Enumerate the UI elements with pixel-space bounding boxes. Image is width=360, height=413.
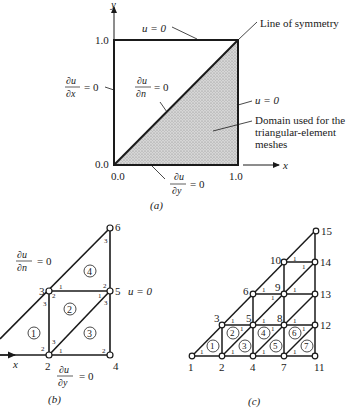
svg-text:8: 8: [277, 312, 283, 324]
svg-text:∂x: ∂x: [66, 88, 76, 99]
svg-text:6: 6: [243, 285, 249, 297]
svg-text:15: 15: [321, 225, 333, 237]
svg-text:2: 2: [52, 292, 56, 300]
node-b-4: [107, 352, 113, 358]
svg-text:1: 1: [240, 325, 244, 333]
svg-text:3: 3: [52, 338, 56, 346]
svg-text:∂y: ∂y: [172, 185, 182, 196]
bottom-bc-label-b: ∂u ∂y = 0: [57, 364, 94, 388]
svg-text:1: 1: [293, 317, 297, 325]
svg-text:1: 1: [31, 328, 36, 339]
figure-canvas: y x 1.0 0.0 0.0 1.0 u = 0 Line of symmet…: [0, 0, 360, 413]
svg-text:1: 1: [293, 286, 297, 294]
svg-text:= 0: = 0: [154, 81, 169, 93]
diag-bc-label-b: ∂u ∂n = 0: [16, 249, 52, 273]
svg-text:10: 10: [270, 254, 282, 266]
svg-text:3: 3: [104, 299, 108, 307]
caption-c: (c): [248, 395, 261, 408]
svg-text:2: 2: [67, 304, 72, 315]
svg-text:4: 4: [87, 266, 92, 277]
figure-b: x 2 3 4 5 6 1: [0, 221, 152, 406]
svg-text:4: 4: [261, 328, 266, 338]
svg-text:3: 3: [214, 312, 220, 324]
svg-text:5: 5: [273, 341, 278, 351]
svg-text:14: 14: [320, 256, 332, 268]
svg-text:2: 2: [103, 282, 107, 290]
tick-y-1: 1.0: [95, 34, 109, 46]
domain-label-line2: triangular-element: [255, 126, 336, 138]
svg-text:= 0: = 0: [79, 370, 94, 382]
svg-text:1: 1: [200, 348, 204, 356]
svg-text:1: 1: [262, 317, 266, 325]
svg-text:1: 1: [271, 294, 275, 302]
left-bc-label: ∂u ∂x = 0: [65, 75, 114, 99]
bottom-bc-label: ∂u ∂y = 0: [152, 166, 205, 196]
symmetry-label: Line of symmetry: [260, 17, 339, 29]
svg-text:= 0: = 0: [190, 178, 205, 190]
right-bc-leader: [238, 101, 252, 105]
svg-text:6: 6: [115, 221, 121, 233]
svg-text:∂u: ∂u: [17, 249, 27, 260]
svg-text:1: 1: [293, 348, 297, 356]
svg-text:3: 3: [39, 285, 45, 297]
svg-text:1: 1: [262, 348, 266, 356]
x-axis-label: x: [282, 159, 288, 171]
svg-text:7: 7: [281, 361, 287, 373]
right-bc-label: u = 0: [255, 94, 279, 106]
svg-text:3: 3: [242, 341, 247, 351]
x-axis-label-b: x: [12, 358, 18, 370]
svg-text:∂n: ∂n: [136, 88, 146, 99]
svg-text:1: 1: [262, 286, 266, 294]
svg-text:9: 9: [275, 281, 281, 293]
svg-text:1: 1: [231, 317, 235, 325]
symmetry-leader: [238, 22, 257, 40]
svg-text:2: 2: [41, 345, 45, 353]
svg-text:11: 11: [314, 361, 325, 373]
svg-text:∂u: ∂u: [66, 75, 76, 86]
top-bc-label: u = 0: [142, 22, 166, 34]
svg-text:2: 2: [45, 360, 51, 372]
svg-text:1: 1: [302, 325, 306, 333]
svg-text:1: 1: [188, 361, 194, 373]
domain-label-line1: Domain used for the: [255, 114, 345, 126]
svg-text:4: 4: [113, 360, 119, 372]
svg-text:1: 1: [231, 348, 235, 356]
svg-text:6: 6: [292, 328, 297, 338]
svg-text:∂u: ∂u: [174, 171, 184, 182]
svg-text:∂u: ∂u: [59, 364, 69, 375]
node-b-5: [107, 288, 113, 294]
diagonal-bc-label: ∂u ∂n = 0: [135, 75, 169, 112]
svg-text:∂n: ∂n: [17, 262, 27, 273]
svg-text:1: 1: [271, 325, 275, 333]
svg-text:3: 3: [104, 237, 108, 245]
svg-text:1: 1: [98, 292, 102, 300]
node-b-6: [107, 225, 113, 231]
svg-text:∂u: ∂u: [137, 75, 147, 86]
figure-a: y x 1.0 0.0 0.0 1.0 u = 0 Line of symmet…: [65, 0, 345, 212]
tick-y-0: 0.0: [95, 158, 109, 170]
svg-text:∂y: ∂y: [58, 377, 68, 388]
svg-text:7: 7: [304, 341, 309, 351]
svg-text:2: 2: [102, 347, 106, 355]
top-bc-leader: [172, 27, 197, 39]
domain-label-line3: meshes: [255, 138, 287, 150]
svg-text:2: 2: [219, 361, 225, 373]
svg-text:= 0: = 0: [37, 255, 52, 267]
svg-text:1: 1: [210, 341, 215, 351]
right-bc-label-b: u = 0: [128, 285, 152, 297]
tick-x-1: 1.0: [229, 170, 243, 182]
svg-text:2: 2: [230, 328, 235, 338]
svg-text:1: 1: [59, 347, 63, 355]
svg-text:5: 5: [115, 285, 121, 297]
svg-text:3: 3: [43, 300, 47, 308]
svg-text:13: 13: [320, 288, 332, 300]
svg-text:1: 1: [302, 263, 306, 271]
svg-text:= 0: = 0: [84, 81, 99, 93]
node-b-2: [46, 352, 52, 358]
figure-c: 1 2 3 4 5 6 7 8 9 10 11 12 13 14 15 1 2 …: [188, 225, 333, 408]
caption-b: (b): [48, 393, 61, 406]
y-axis-label: y: [110, 0, 116, 10]
svg-text:1: 1: [59, 283, 63, 291]
tick-x-0: 0.0: [111, 170, 125, 182]
svg-text:1: 1: [293, 255, 297, 263]
